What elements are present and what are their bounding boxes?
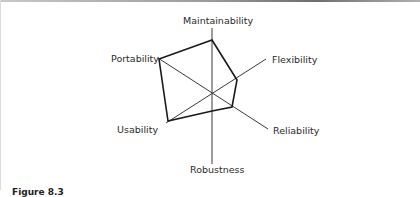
- figure-caption: Figure 8.3: [12, 188, 64, 197]
- radar-axes: [158, 28, 268, 164]
- label-portability: Portability: [111, 54, 159, 64]
- label-flexibility: Flexibility: [272, 55, 317, 65]
- label-robustness: Robustness: [190, 165, 244, 175]
- label-reliability: Reliability: [273, 126, 319, 136]
- radar-polygon: [159, 40, 237, 121]
- caption-lead: Figure 8.3: [12, 187, 64, 197]
- label-usability: Usability: [117, 125, 158, 135]
- label-maintainability: Maintainability: [183, 16, 253, 26]
- axis-flexibility-usability: [166, 59, 266, 123]
